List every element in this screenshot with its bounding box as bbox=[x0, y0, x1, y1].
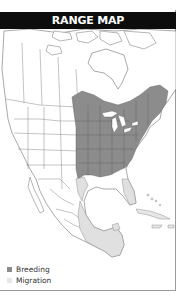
map-legend: Breeding Migration bbox=[7, 264, 51, 286]
legend-label: Breeding bbox=[16, 265, 50, 274]
range-map-title: RANGE MAP bbox=[0, 12, 176, 29]
legend-label: Migration bbox=[16, 276, 51, 285]
north-america-map bbox=[0, 29, 176, 259]
legend-item-migration: Migration bbox=[7, 275, 51, 286]
legend-item-breeding: Breeding bbox=[7, 264, 51, 275]
caribbean-islands bbox=[136, 194, 174, 228]
breeding-swatch bbox=[7, 267, 12, 272]
migration-swatch bbox=[7, 278, 12, 283]
